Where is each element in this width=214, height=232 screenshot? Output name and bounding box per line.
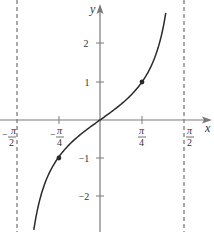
- x-label-pi-2: π 2: [186, 125, 194, 148]
- svg-text:π: π: [57, 125, 63, 136]
- svg-text:π: π: [11, 125, 17, 136]
- svg-text:π: π: [139, 125, 145, 136]
- svg-text:2: 2: [187, 137, 192, 148]
- y-tick-label-neg2: −2: [79, 191, 90, 202]
- x-label-neg-pi-2: − π 2: [2, 125, 17, 148]
- point-pi-4: [140, 80, 145, 85]
- y-tick-label-2: 2: [84, 38, 89, 49]
- svg-text:4: 4: [139, 137, 144, 148]
- y-tick-label-neg1: −1: [79, 153, 90, 164]
- y-axis-label: y: [89, 2, 96, 16]
- svg-text:−: −: [2, 129, 8, 140]
- point-neg-pi-4: [57, 156, 62, 161]
- y-tick-label-1: 1: [85, 77, 90, 88]
- svg-text:2: 2: [9, 137, 14, 148]
- x-label-pi-4: π 4: [138, 125, 146, 148]
- x-label-neg-pi-4: − π 4: [50, 125, 64, 148]
- tangent-graph: y x 2 1 −1 −2 − π 2 − π 4 π 4 π 2: [0, 0, 214, 232]
- svg-text:π: π: [187, 125, 193, 136]
- svg-text:4: 4: [57, 137, 62, 148]
- svg-text:−: −: [50, 129, 56, 140]
- x-axis-label: x: [204, 121, 211, 135]
